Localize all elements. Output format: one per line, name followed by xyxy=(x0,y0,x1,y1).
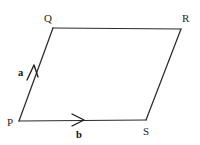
edge-q-r xyxy=(53,28,181,29)
vertex-label-q: Q xyxy=(44,12,52,24)
edge-p-q xyxy=(19,28,53,121)
vector-label-a: a xyxy=(18,67,24,78)
geometry-figure: P Q R S a b xyxy=(0,0,200,145)
vector-a-arrowhead-icon xyxy=(27,65,38,80)
edge-r-s xyxy=(146,29,181,120)
vertex-label-p: P xyxy=(7,116,13,128)
vertex-label-s: S xyxy=(143,125,149,137)
vertex-label-r: R xyxy=(182,12,190,24)
vector-label-b: b xyxy=(76,129,82,140)
parallelogram-diagram: P Q R S a b xyxy=(0,0,200,145)
